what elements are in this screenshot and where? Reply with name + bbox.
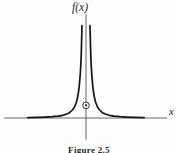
x-axis-label: x (169, 107, 174, 118)
y-axis-label: f(x) (72, 2, 88, 14)
graph-canvas (0, 0, 178, 153)
marked-point-dot (85, 104, 87, 106)
figure-caption: Figure 2.5 (0, 145, 178, 153)
figure-2-5: f(x) x Figure 2.5 (0, 0, 178, 153)
curve-left-branch (28, 26, 82, 118)
curve-right-branch (90, 26, 144, 118)
